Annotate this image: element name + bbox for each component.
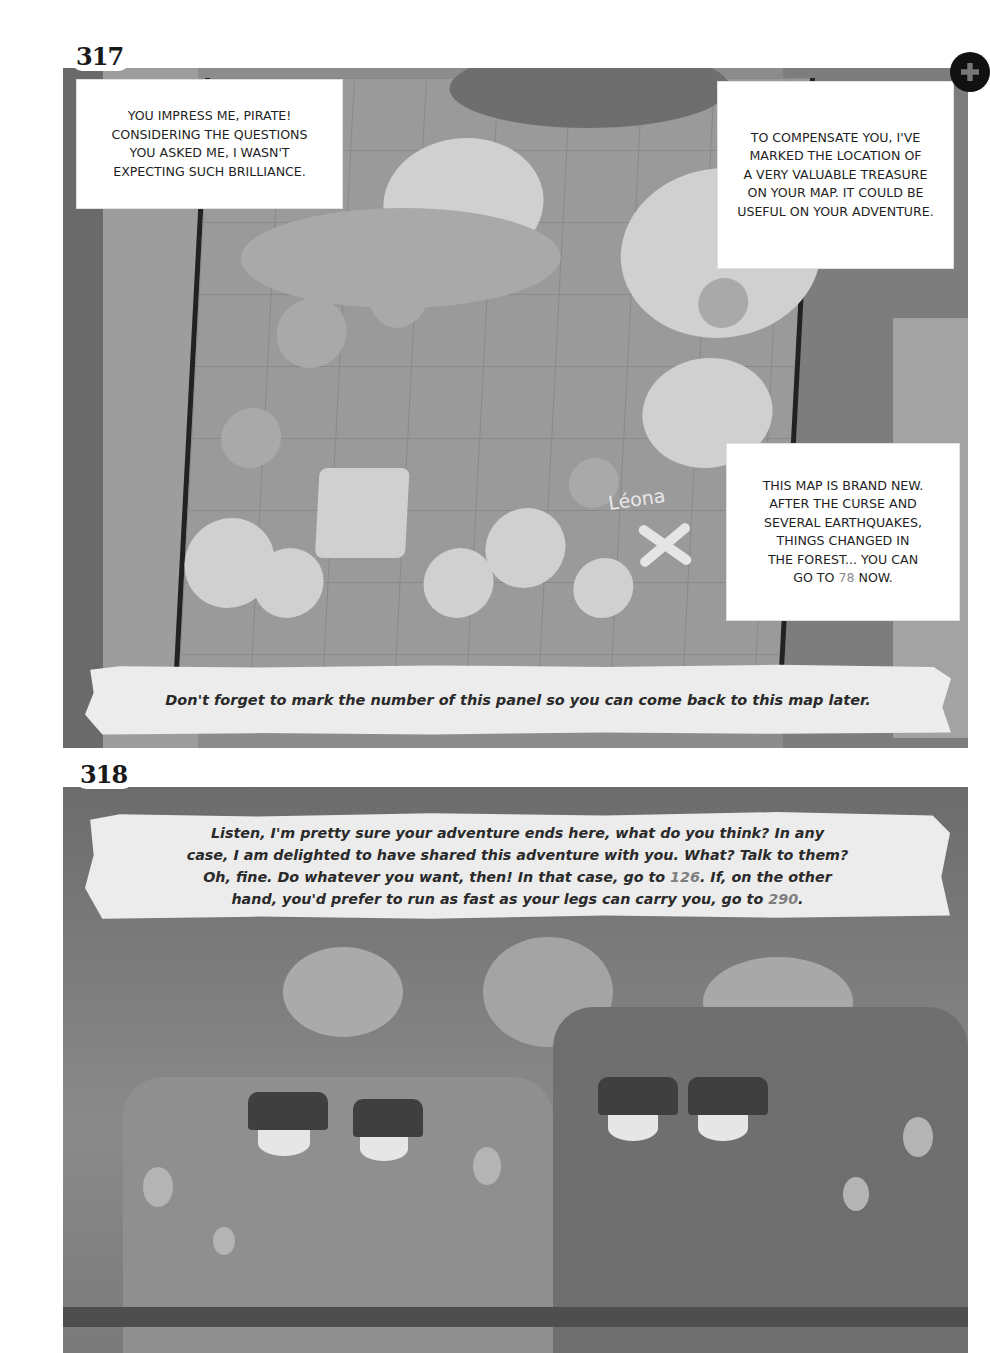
panel-318-ogres: Listen, I'm pretty sure your adventure e… bbox=[63, 787, 968, 1353]
skin-spot bbox=[903, 1117, 933, 1157]
panel-link-126[interactable]: 126 bbox=[670, 869, 700, 885]
ogre-belt bbox=[63, 1307, 968, 1327]
ogre-left-brow bbox=[353, 1099, 423, 1137]
caption-line: A VERY VALUABLE TREASURE bbox=[737, 166, 934, 185]
caption-line: TO COMPENSATE YOU, I'VE bbox=[737, 129, 934, 148]
caption-line: THE FOREST... YOU CAN bbox=[763, 551, 924, 570]
caption-brand-new: THIS MAP IS BRAND NEW. AFTER THE CURSE A… bbox=[727, 444, 959, 620]
puzzle-piece-icon bbox=[950, 52, 990, 92]
ogre-right-eye bbox=[698, 1115, 748, 1141]
caption-line-goto: GO TO 78 NOW. bbox=[763, 569, 924, 588]
ogre-right-brow bbox=[598, 1077, 678, 1115]
narration-scroll: Listen, I'm pretty sure your adventure e… bbox=[85, 811, 950, 921]
caption-line: CONSIDERING THE QUESTIONS bbox=[111, 126, 307, 145]
caption-impress: YOU IMPRESS ME, PIRATE! CONSIDERING THE … bbox=[77, 80, 342, 208]
caption-line: YOU IMPRESS ME, PIRATE! bbox=[111, 107, 307, 126]
ogre-left-eye bbox=[258, 1130, 310, 1156]
caption-compensate: TO COMPENSATE YOU, I'VE MARKED THE LOCAT… bbox=[718, 82, 953, 268]
caption-line: EXPECTING SUCH BRILLIANCE. bbox=[111, 163, 307, 182]
ogre-right-eye bbox=[608, 1115, 658, 1141]
narration-line: hand, you'd prefer to run as fast as you… bbox=[187, 888, 849, 910]
panel-number-318: 318 bbox=[76, 760, 133, 789]
panel-link-78[interactable]: 78 bbox=[838, 570, 854, 585]
narration-line: Oh, fine. Do whatever you want, then! In… bbox=[187, 866, 849, 888]
ogre-left-eye bbox=[360, 1137, 408, 1161]
ogre-left-brow bbox=[248, 1092, 328, 1130]
caption-line: YOU ASKED ME, I WASN'T bbox=[111, 144, 307, 163]
panel-number-317: 317 bbox=[72, 42, 129, 71]
map-ruins bbox=[315, 468, 410, 558]
caption-line: USEFUL ON YOUR ADVENTURE. bbox=[737, 203, 934, 222]
bg-foliage bbox=[283, 947, 403, 1037]
footer-note-scroll: Don't forget to mark the number of this … bbox=[85, 664, 951, 736]
footer-note-text: Don't forget to mark the number of this … bbox=[165, 692, 870, 708]
caption-line: ON YOUR MAP. IT COULD BE bbox=[737, 184, 934, 203]
panel-link-290[interactable]: 290 bbox=[768, 891, 798, 907]
skin-spot bbox=[213, 1227, 235, 1255]
narration-line: case, I am delighted to have shared this… bbox=[187, 844, 849, 866]
ogre-right-brow bbox=[688, 1077, 768, 1115]
skin-spot bbox=[843, 1177, 869, 1211]
treasure-x-mark-icon bbox=[638, 518, 692, 572]
caption-line: THINGS CHANGED IN bbox=[763, 532, 924, 551]
narration-line: Listen, I'm pretty sure your adventure e… bbox=[187, 822, 849, 844]
caption-line: AFTER THE CURSE AND bbox=[763, 495, 924, 514]
caption-line: THIS MAP IS BRAND NEW. bbox=[763, 477, 924, 496]
ogre-right bbox=[553, 1007, 968, 1353]
caption-line: MARKED THE LOCATION OF bbox=[737, 147, 934, 166]
skin-spot bbox=[143, 1167, 173, 1207]
skin-spot bbox=[473, 1147, 501, 1185]
caption-line: SEVERAL EARTHQUAKES, bbox=[763, 514, 924, 533]
panel-317-map: Léona YOU IMPRESS ME, PIRATE! CONSIDERIN… bbox=[63, 68, 968, 748]
